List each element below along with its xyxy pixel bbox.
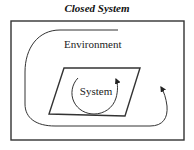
diagram-title: Closed System bbox=[64, 2, 130, 14]
closed-system-diagram: Closed System Environment System bbox=[0, 0, 194, 150]
environment-label: Environment bbox=[64, 38, 121, 50]
system-label: System bbox=[80, 85, 113, 97]
